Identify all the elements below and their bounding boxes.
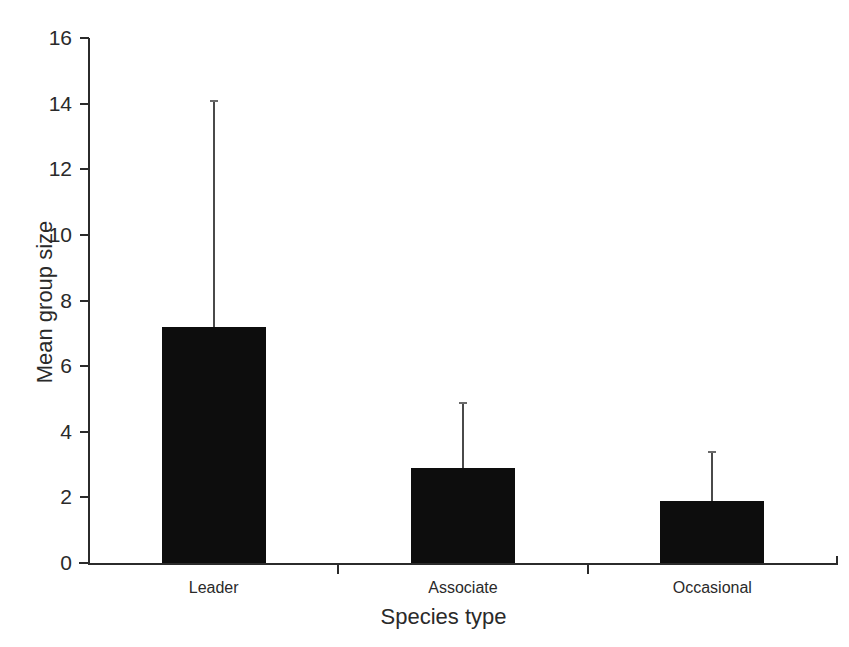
y-axis-tick bbox=[80, 37, 89, 39]
x-axis-title: Species type bbox=[0, 606, 849, 628]
y-axis-title: Mean group size bbox=[34, 152, 56, 452]
error-bar-cap-leader bbox=[210, 100, 218, 102]
error-bar-associate bbox=[462, 402, 464, 468]
category-label-occasional: Occasional bbox=[588, 580, 837, 596]
y-axis-tick bbox=[80, 103, 89, 105]
x-axis-right-cap bbox=[836, 556, 838, 565]
bar-associate bbox=[411, 468, 515, 563]
y-axis-tick bbox=[80, 168, 89, 170]
y-axis-tick-label-text: 0 bbox=[0, 552, 72, 573]
x-axis-tick bbox=[337, 564, 339, 574]
bar-chart-figure: 0246810121416 Mean group size LeaderAsso… bbox=[0, 0, 849, 647]
y-axis-tick-label-text: 2 bbox=[0, 486, 72, 507]
y-axis-tick bbox=[80, 300, 89, 302]
error-bar-cap-associate bbox=[459, 402, 467, 404]
origin-tick bbox=[79, 562, 89, 564]
x-axis-line bbox=[88, 563, 838, 565]
y-axis-tick-label-text: 16 bbox=[0, 27, 72, 48]
y-axis-tick-label: 16 bbox=[0, 27, 72, 48]
y-axis-tick-label-text: 14 bbox=[0, 93, 72, 114]
error-bar-leader bbox=[213, 100, 215, 326]
bar-occasional bbox=[660, 501, 764, 563]
y-axis-line bbox=[88, 38, 90, 565]
y-axis-tick bbox=[80, 365, 89, 367]
y-axis-tick bbox=[80, 431, 89, 433]
bar-leader bbox=[162, 327, 266, 563]
y-axis-tick-label: 14 bbox=[0, 93, 72, 114]
y-axis-tick-label: 2 bbox=[0, 486, 72, 507]
x-axis-tick bbox=[587, 564, 589, 574]
error-bar-occasional bbox=[711, 451, 713, 500]
y-axis-tick bbox=[80, 496, 89, 498]
category-label-leader: Leader bbox=[89, 580, 338, 596]
error-bar-cap-occasional bbox=[708, 451, 716, 453]
y-axis-tick bbox=[80, 234, 89, 236]
category-label-associate: Associate bbox=[338, 580, 587, 596]
y-axis-tick-label: 0 bbox=[0, 552, 72, 573]
